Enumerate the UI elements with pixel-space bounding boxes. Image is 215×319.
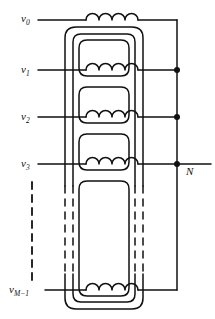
circuit-diagram-figure: v0 v1 v2 v3 vM−1 N xyxy=(0,0,215,319)
transformer-schematic-svg: v0 v1 v2 v3 vM−1 N xyxy=(0,0,215,319)
label-v1: v1 xyxy=(21,63,30,78)
core-windows xyxy=(79,40,129,296)
winding-v1-coil xyxy=(86,64,138,71)
label-v0: v0 xyxy=(21,12,30,27)
winding-v2 xyxy=(38,111,177,118)
label-v3: v3 xyxy=(21,157,30,172)
junction-v1 xyxy=(174,67,180,73)
winding-v3 xyxy=(38,158,211,165)
junction-v2 xyxy=(174,114,180,120)
winding-vM1-coil xyxy=(86,284,138,291)
figure-labels: v0 v1 v2 v3 vM−1 N xyxy=(9,12,194,298)
junction-neutral-N xyxy=(174,161,180,167)
core-window-3 xyxy=(79,134,129,170)
label-N: N xyxy=(185,165,194,177)
core-window-2 xyxy=(79,87,129,123)
core-outer-top xyxy=(65,27,143,186)
winding-v2-coil xyxy=(86,111,138,118)
winding-v1 xyxy=(38,64,177,71)
core-outer-dashed xyxy=(65,186,143,274)
label-v2: v2 xyxy=(21,110,30,125)
winding-v0 xyxy=(38,14,177,21)
core-window-1 xyxy=(79,40,129,76)
core-outer-bottom xyxy=(65,274,143,309)
winding-v3-coil xyxy=(86,158,138,165)
core-inner-dashed xyxy=(73,186,135,274)
core-window-4 xyxy=(79,181,129,296)
winding-v0-coil xyxy=(86,14,138,21)
label-vM-1: vM−1 xyxy=(9,283,29,298)
